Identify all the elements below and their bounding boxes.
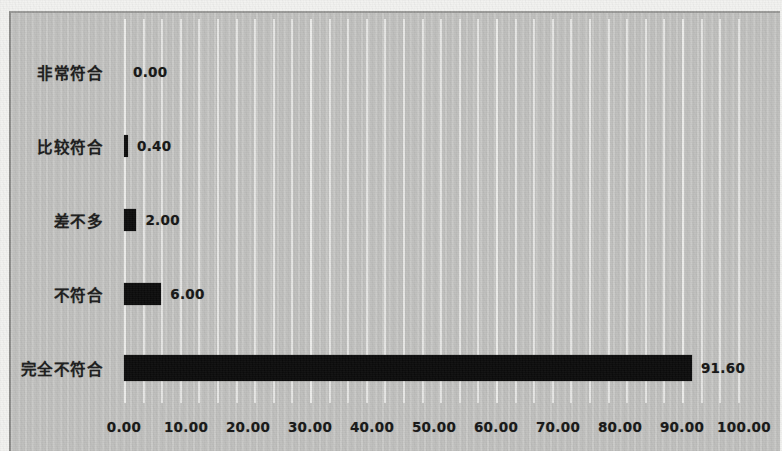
x-tick-label: 40.00 bbox=[350, 419, 394, 435]
bar bbox=[124, 283, 161, 305]
x-tick-label: 60.00 bbox=[474, 419, 518, 435]
bar-row: 完全不符合 91.60 bbox=[11, 331, 780, 405]
bar-group: 6.00 bbox=[124, 283, 205, 305]
bar bbox=[124, 355, 692, 381]
bar-group: 0.40 bbox=[124, 135, 172, 157]
bar-group: 2.00 bbox=[124, 209, 180, 231]
bar bbox=[124, 135, 128, 157]
bar-row: 非常符合 0.00 bbox=[11, 35, 780, 109]
scanned-page: 非常符合 0.00 比较符合 0.40 差不多 2.00 bbox=[0, 0, 782, 451]
x-tick-label: 0.00 bbox=[107, 419, 142, 435]
bar-group: 91.60 bbox=[124, 355, 745, 381]
category-label: 比较符合 bbox=[37, 135, 103, 157]
bar-value-label: 0.00 bbox=[133, 64, 168, 80]
x-axis: 0.0010.0020.0030.0040.0050.0060.0070.008… bbox=[124, 419, 780, 443]
bar-value-label: 2.00 bbox=[145, 212, 180, 228]
bar-row: 差不多 2.00 bbox=[11, 183, 780, 257]
category-label: 完全不符合 bbox=[21, 357, 104, 379]
bar-value-label: 91.60 bbox=[701, 360, 745, 376]
bar-row: 不符合 6.00 bbox=[11, 257, 780, 331]
x-tick-label: 20.00 bbox=[226, 419, 270, 435]
x-tick-label: 100.00 bbox=[717, 419, 771, 435]
category-label: 差不多 bbox=[54, 209, 104, 231]
x-tick-label: 90.00 bbox=[660, 419, 704, 435]
category-label: 非常符合 bbox=[37, 61, 103, 83]
x-tick-label: 10.00 bbox=[164, 419, 208, 435]
x-tick-label: 80.00 bbox=[598, 419, 642, 435]
bar-row: 比较符合 0.40 bbox=[11, 109, 780, 183]
category-label: 不符合 bbox=[54, 283, 104, 305]
chart-frame: 非常符合 0.00 比较符合 0.40 差不多 2.00 bbox=[9, 11, 780, 451]
x-tick-label: 30.00 bbox=[288, 419, 332, 435]
x-tick-label: 70.00 bbox=[536, 419, 580, 435]
bar-value-label: 0.40 bbox=[137, 138, 172, 154]
bar-group: 0.00 bbox=[124, 61, 168, 83]
bar-value-label: 6.00 bbox=[170, 286, 205, 302]
bar-rows: 非常符合 0.00 比较符合 0.40 差不多 2.00 bbox=[11, 13, 780, 409]
x-tick-label: 50.00 bbox=[412, 419, 456, 435]
bar bbox=[124, 209, 136, 231]
